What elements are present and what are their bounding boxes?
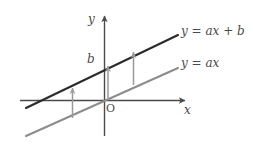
- origin-label: O: [106, 103, 115, 114]
- figure-canvas: [0, 0, 253, 151]
- line-y-equals-ax-plus-b: [26, 35, 178, 108]
- equation-label-lower-line: y = ax: [181, 57, 219, 69]
- y-axis-label: y: [88, 13, 95, 25]
- equation-label-upper-line: y = ax + b: [181, 25, 245, 37]
- x-axis-label: x: [184, 104, 191, 116]
- y-intercept-label-b: b: [87, 53, 95, 65]
- linear-function-translation-figure: y x O b y = ax + b y = ax: [0, 0, 253, 151]
- line-y-equals-ax: [26, 68, 178, 136]
